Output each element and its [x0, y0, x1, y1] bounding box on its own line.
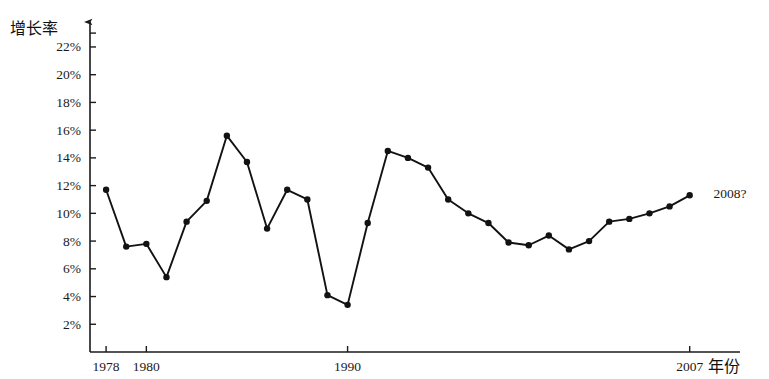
data-point [123, 243, 129, 249]
data-point [485, 220, 491, 226]
data-point [606, 218, 612, 224]
x-tick-label: 1980 [133, 359, 160, 374]
growth-rate-points [103, 133, 693, 309]
y-tick-label: 14% [56, 150, 81, 165]
data-point [686, 192, 692, 198]
y-tick-label: 20% [56, 67, 81, 82]
data-point [626, 216, 632, 222]
data-point [304, 196, 310, 202]
data-point [183, 218, 189, 224]
data-point [646, 210, 652, 216]
y-axis-ticks [90, 33, 96, 324]
data-point [103, 187, 109, 193]
data-point [264, 225, 270, 231]
x-axis-title: 年份 [708, 358, 740, 375]
data-point [244, 159, 250, 165]
data-point [204, 198, 210, 204]
y-tick-label: 4% [63, 289, 81, 304]
data-point [586, 238, 592, 244]
chart-annotations: 2008? [713, 186, 746, 201]
annotation-2008: 2008? [713, 186, 746, 201]
y-tick-label: 10% [56, 206, 81, 221]
data-point [526, 242, 532, 248]
data-point [324, 292, 330, 298]
y-axis-title: 增长率 [10, 20, 58, 37]
data-point [143, 241, 149, 247]
data-point [666, 203, 672, 209]
chart-canvas: 2%4%6%8%10%12%14%16%18%20%22% 1978198019… [0, 0, 769, 379]
data-point [365, 220, 371, 226]
data-point [224, 133, 230, 139]
data-point [344, 302, 350, 308]
data-point [284, 187, 290, 193]
data-point [505, 239, 511, 245]
growth-rate-chart: 2%4%6%8%10%12%14%16%18%20%22% 1978198019… [0, 0, 769, 379]
y-tick-label: 8% [63, 234, 81, 249]
y-tick-label: 18% [56, 95, 81, 110]
x-axis-tick-labels: 1978198019902007 [93, 359, 704, 374]
y-tick-label: 6% [63, 261, 81, 276]
y-tick-label: 22% [56, 39, 81, 54]
growth-rate-line [106, 136, 690, 305]
data-point [425, 164, 431, 170]
y-tick-label: 2% [63, 317, 81, 332]
y-tick-label: 12% [56, 178, 81, 193]
x-tick-label: 1990 [334, 359, 361, 374]
y-tick-label: 16% [56, 123, 81, 138]
data-point [546, 232, 552, 238]
data-point [163, 274, 169, 280]
x-axis-ticks [106, 346, 690, 352]
data-point [405, 155, 411, 161]
x-tick-label: 1978 [93, 359, 120, 374]
data-point [566, 246, 572, 252]
axes-group [90, 22, 740, 352]
data-point [465, 210, 471, 216]
data-point [445, 196, 451, 202]
x-tick-label: 2007 [676, 359, 703, 374]
data-point [385, 148, 391, 154]
y-axis-tick-labels: 2%4%6%8%10%12%14%16%18%20%22% [56, 39, 81, 331]
